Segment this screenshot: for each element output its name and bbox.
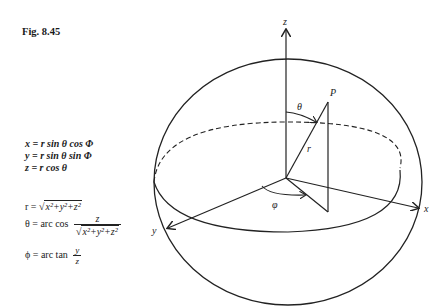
x-axis — [286, 178, 418, 208]
y-axis — [168, 178, 286, 228]
equator-back-dashed — [154, 122, 401, 182]
x-axis-label: x — [423, 203, 429, 214]
radius-label: r — [307, 143, 311, 154]
theta-arc-arrow — [286, 112, 316, 122]
phi-label: φ — [272, 199, 278, 210]
point-p-label: P — [329, 87, 336, 98]
spherical-coordinates-diagram: z x y P r θ φ — [0, 0, 444, 307]
phi-arc-arrow — [262, 186, 305, 195]
y-axis-label: y — [151, 225, 157, 236]
radius-line — [286, 102, 328, 178]
sphere-outline — [154, 59, 422, 305]
theta-label: θ — [297, 101, 302, 112]
z-axis-label: z — [282, 16, 287, 27]
